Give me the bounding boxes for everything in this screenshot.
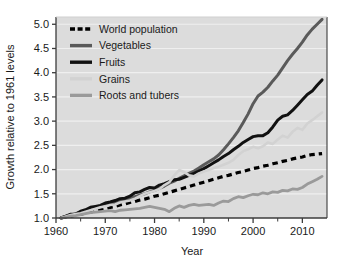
y-tick-label: 3.5	[34, 91, 49, 103]
y-tick-label: 4.5	[34, 42, 49, 54]
x-tick-label: 1980	[142, 225, 166, 237]
legend-label: Grains	[99, 73, 130, 85]
x-tick-label: 2010	[290, 225, 314, 237]
growth-relative-chart: 196019701980199020002010 1.01.52.02.53.0…	[0, 0, 342, 263]
legend-label: Fruits	[99, 56, 125, 68]
chart-canvas: 196019701980199020002010 1.01.52.02.53.0…	[0, 0, 342, 263]
x-axis-title: Year	[181, 245, 204, 257]
y-axis-title: Growth relative to 1961 levels	[4, 44, 16, 189]
y-tick-label: 2.5	[34, 139, 49, 151]
y-axis-tick-labels: 1.01.52.02.53.03.54.04.55.0	[34, 18, 49, 224]
legend-label: Roots and tubers	[99, 89, 179, 101]
y-tick-label: 2.0	[34, 163, 49, 175]
y-tick-label: 4.0	[34, 66, 49, 78]
legend-label: World population	[99, 23, 178, 35]
x-tick-label: 1990	[192, 225, 216, 237]
y-tick-label: 3.0	[34, 115, 49, 127]
legend-label: Vegetables	[99, 39, 151, 51]
y-tick-label: 1.0	[34, 212, 49, 224]
x-tick-label: 2000	[241, 225, 265, 237]
plot-area-background	[56, 17, 327, 218]
y-tick-label: 5.0	[34, 18, 49, 30]
x-tick-label: 1960	[44, 225, 68, 237]
x-tick-label: 1970	[93, 225, 117, 237]
y-tick-label: 1.5	[34, 188, 49, 200]
